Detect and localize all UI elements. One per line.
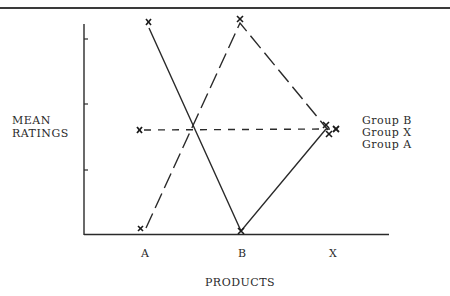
- x-tick-label-x: X: [329, 247, 337, 260]
- y-axis-label-line-1: MEAN: [12, 114, 69, 127]
- legend-item-group-a: Group A: [362, 139, 412, 151]
- x-marker-icon: [138, 16, 332, 231]
- series-group-a: [138, 16, 332, 231]
- x-axis-label: PRODUCTS: [205, 276, 275, 289]
- x-tick-label-a: A: [141, 247, 149, 260]
- x-tick-label-b: B: [238, 247, 246, 260]
- x-marker-icon: [137, 126, 339, 133]
- x-marker-icon: [146, 19, 329, 234]
- series-group-x: [137, 126, 339, 133]
- legend: Group B Group X Group A: [362, 115, 412, 151]
- y-axis-label-line-2: RATINGS: [12, 127, 69, 140]
- series-group-b: [146, 19, 329, 234]
- y-axis-label: MEAN RATINGS: [12, 114, 69, 140]
